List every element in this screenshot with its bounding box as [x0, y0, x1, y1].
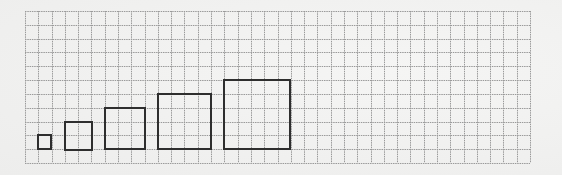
square-5x5: [223, 79, 291, 150]
square-2x2: [64, 121, 93, 151]
square-3x3: [104, 107, 146, 150]
square-1x1: [37, 134, 52, 150]
square-4x4: [157, 93, 212, 150]
grid: [25, 11, 530, 163]
